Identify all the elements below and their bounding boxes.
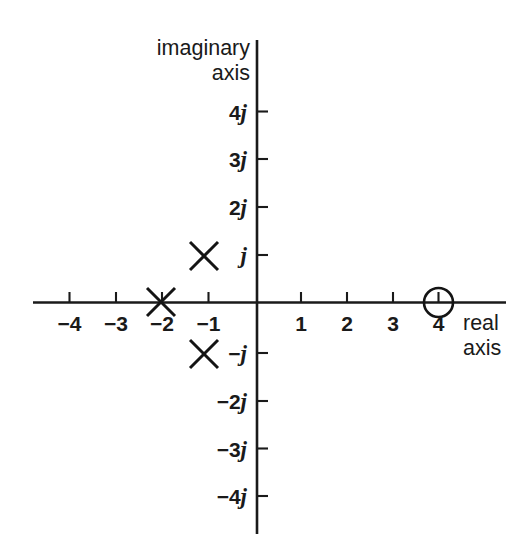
imaginary-axis-label-line1: imaginary <box>96 36 250 61</box>
imag-tick-label-minus-j: −j <box>175 342 247 365</box>
imag-tick-label-3j: 3j <box>175 148 247 171</box>
real-axis-label-line2: axis <box>463 336 523 361</box>
imaginary-axis-label: imaginary axis <box>96 36 250 85</box>
imag-tick-label-minus-4j: −4j <box>175 485 247 508</box>
imag-tick-label-minus-2j: −2j <box>175 390 247 413</box>
imag-tick-label-j: j <box>175 244 247 267</box>
real-axis-label-line1: real <box>463 311 523 336</box>
imag-tick-label-minus-3j: −3j <box>175 438 247 461</box>
imag-tick-label-4j: 4j <box>175 101 247 124</box>
imag-tick-label-2j: 2j <box>175 196 247 219</box>
plot-canvas <box>0 0 525 555</box>
real-tick-label-minus-1: −1 <box>179 313 239 334</box>
real-axis-label: real axis <box>463 311 523 360</box>
real-axis-ticks <box>70 292 439 303</box>
imaginary-axis-label-line2: axis <box>96 61 250 86</box>
pole-zero-plot: imaginary axis real axis 4j 3j 2j j −j −… <box>0 0 525 555</box>
real-tick-label-4: 4 <box>409 313 469 334</box>
